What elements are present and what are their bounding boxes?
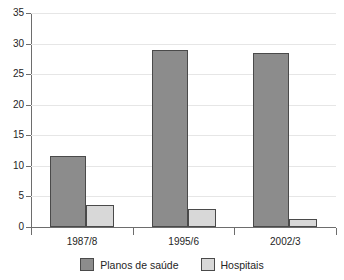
- y-tick-mark-10: [26, 166, 31, 167]
- bar-1995-6-series-1: [188, 209, 216, 227]
- x-category-label-2002-3: 2002/3: [245, 236, 325, 248]
- bar-1995-6-series-0: [152, 50, 188, 227]
- x-separator-tick-end-3: [336, 228, 337, 235]
- y-tick-label-15: 15: [0, 130, 24, 140]
- y-tick-mark-5: [26, 196, 31, 197]
- gridline-0: [31, 227, 336, 228]
- y-tick-mark-30: [26, 44, 31, 45]
- y-tick-label-30: 30: [0, 39, 24, 49]
- bar-chart-figure: 05101520253035 1987/81995/62002/3 Planos…: [0, 0, 344, 280]
- y-tick-mark-35: [26, 13, 31, 14]
- y-tick-mark-15: [26, 135, 31, 136]
- y-tick-mark-25: [26, 74, 31, 75]
- legend-label-0: Planos de saúde: [100, 259, 178, 271]
- legend-swatch-icon-1: [201, 258, 215, 271]
- y-tick-label-25: 25: [0, 69, 24, 79]
- gridline-35: [31, 13, 336, 14]
- x-category-label-1987-8: 1987/8: [42, 236, 122, 248]
- y-tick-label-20: 20: [0, 100, 24, 110]
- legend-label-1: Hospitais: [221, 259, 264, 271]
- y-tick-label-35: 35: [0, 8, 24, 18]
- x-category-label-1995-6: 1995/6: [144, 236, 224, 248]
- legend-entry-0: Planos de saúde: [80, 258, 178, 271]
- bar-1987-8-series-1: [86, 205, 114, 227]
- x-separator-tick-0: [133, 228, 134, 235]
- x-separator-tick-end-0: [31, 228, 32, 235]
- x-separator-tick-1: [234, 228, 235, 235]
- y-tick-label-0: 0: [0, 222, 24, 232]
- gridline-30: [31, 44, 336, 45]
- bar-1987-8-series-0: [50, 156, 86, 227]
- y-tick-mark-20: [26, 105, 31, 106]
- y-axis-tick-labels: 05101520253035: [0, 0, 24, 280]
- chart-legend: Planos de saúdeHospitais: [0, 258, 344, 271]
- y-tick-label-10: 10: [0, 161, 24, 171]
- legend-swatch-icon-0: [80, 258, 94, 271]
- bar-2002-3-series-1: [289, 219, 317, 227]
- plot-area: [31, 13, 336, 227]
- legend-entry-1: Hospitais: [201, 258, 264, 271]
- bar-2002-3-series-0: [253, 53, 289, 227]
- y-tick-label-5: 5: [0, 191, 24, 201]
